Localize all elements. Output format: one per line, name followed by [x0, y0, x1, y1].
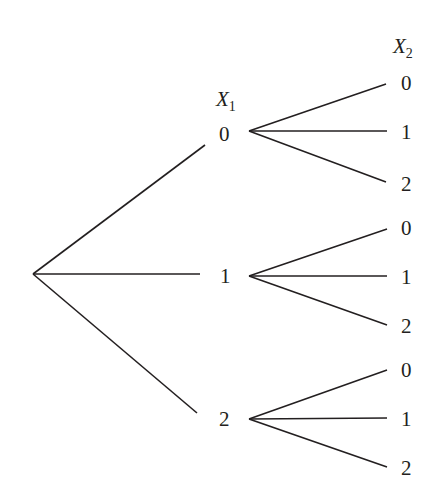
branch-x1-2-to-x2-2 — [249, 419, 387, 467]
branch-root-to-x1-0 — [33, 145, 205, 274]
x2-node-1-0: 0 — [401, 216, 412, 240]
x2-node-2-2: 2 — [401, 456, 412, 480]
x1-node-0: 0 — [219, 122, 230, 146]
x1-node-1: 1 — [220, 264, 231, 288]
branch-root-to-x1-2 — [33, 274, 197, 413]
branch-x1-1-to-x2-2 — [249, 276, 387, 325]
x2-node-0-2: 2 — [401, 172, 412, 196]
x2-node-0-0: 0 — [401, 71, 412, 95]
branch-x1-2-to-x2-1 — [249, 418, 387, 419]
x2-node-1-1: 1 — [401, 265, 412, 289]
branch-x1-2-to-x2-0 — [249, 370, 387, 419]
x1-header: X1 — [215, 87, 236, 114]
x2-node-1-2: 2 — [401, 314, 412, 338]
x2-node-2-0: 0 — [401, 358, 412, 382]
branch-x1-0-to-x2-2 — [249, 131, 386, 182]
branch-x1-0-to-x2-0 — [249, 84, 386, 131]
branch-x1-1-to-x2-0 — [249, 229, 387, 276]
x2-node-0-1: 1 — [401, 120, 412, 144]
x1-node-2: 2 — [219, 407, 230, 431]
x2-header: X2 — [392, 34, 413, 61]
x2-node-2-1: 1 — [401, 407, 412, 431]
probability-tree-diagram: X1 X2 0 1 2 0 1 2 0 1 2 0 1 2 — [0, 0, 439, 501]
